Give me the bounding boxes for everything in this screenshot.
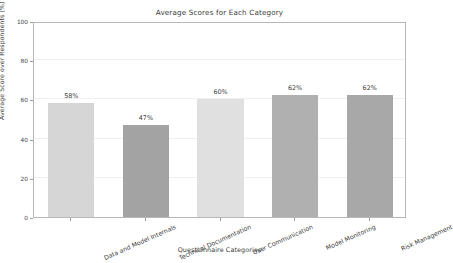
x-tick-mark [220, 218, 221, 221]
x-tick-label: Data and Model Internals [103, 223, 177, 261]
bar-group[interactable]: 62% [347, 23, 393, 217]
plot-area: 58%47%60%62%62% [33, 22, 406, 218]
y-tick-mark [30, 140, 33, 141]
y-tick-mark [30, 179, 33, 180]
bar[interactable] [347, 95, 393, 217]
x-tick-mark [294, 218, 295, 221]
y-tick-label: 20 [21, 176, 28, 182]
bar[interactable] [123, 125, 169, 217]
bar-series: 58%47%60%62%62% [34, 23, 405, 217]
x-tick-mark [70, 218, 71, 221]
x-axis-label: Questionnaire Categories [33, 246, 406, 254]
y-tick-label: 80 [21, 58, 28, 64]
y-axis-label: Average Score over Respondents (%) [0, 1, 5, 120]
y-tick-label: 40 [21, 137, 28, 143]
y-tick-mark [30, 100, 33, 101]
bar[interactable] [197, 99, 243, 217]
y-tick-mark [30, 22, 33, 23]
bar-group[interactable]: 60% [197, 23, 243, 217]
x-tick-mark [145, 218, 146, 221]
bar-group[interactable]: 62% [272, 23, 318, 217]
x-tick-mark [369, 218, 370, 221]
y-tick-mark [30, 218, 33, 219]
y-tick-mark [30, 61, 33, 62]
bar-value-label: 58% [48, 92, 94, 100]
bar-value-label: 60% [197, 88, 243, 96]
y-tick-label: 0 [24, 215, 28, 221]
bar[interactable] [272, 95, 318, 217]
bar-group[interactable]: 47% [123, 23, 169, 217]
bar[interactable] [48, 103, 94, 217]
chart-title: Average Scores for Each Category [33, 8, 406, 17]
y-tick-label: 100 [17, 19, 28, 25]
y-tick-label: 60 [21, 97, 28, 103]
bar-group[interactable]: 58% [48, 23, 94, 217]
x-tick-label: Technical Documentation [178, 223, 252, 261]
bar-value-label: 62% [347, 84, 393, 92]
bar-value-label: 47% [123, 114, 169, 122]
bar-value-label: 62% [272, 84, 318, 92]
x-tick-label: Risk Management [399, 223, 453, 252]
